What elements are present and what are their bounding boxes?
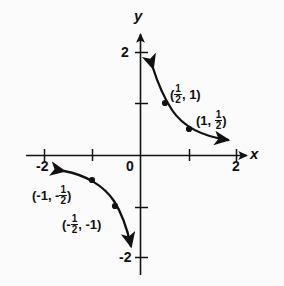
origin-label: 0 (126, 159, 134, 173)
label-open-paren: (1, (196, 113, 215, 128)
label-open-paren: (-1, - (32, 188, 59, 203)
point-one-half (186, 126, 192, 132)
graph-figure: x y 0 -2 2 2 -2 (12, 1) (1, 12) (-1, -12… (0, 0, 284, 286)
point-neg-one-neg-half (89, 177, 95, 183)
x-axis-label: x (250, 146, 258, 161)
fraction-one-half: 12 (174, 84, 182, 105)
point-label-neg-half-neg-one: (-12, -1) (62, 214, 101, 235)
point-half-one (162, 100, 168, 106)
label-rest: , 1) (182, 87, 201, 102)
graph-canvas (0, 0, 284, 286)
label-rest: , -1) (78, 217, 101, 232)
y-axis-label: y (134, 8, 142, 23)
x-tick-label--2: -2 (36, 159, 48, 173)
point-neg-half-neg-one (112, 203, 118, 209)
y-tick-label-2: 2 (121, 45, 129, 59)
fraction-one-half: 12 (59, 185, 67, 206)
label-rest: ) (67, 188, 71, 203)
label-rest: ) (222, 113, 226, 128)
point-label-neg-one-neg-half: (-1, -12) (32, 185, 71, 206)
y-tick-label--2: -2 (119, 250, 131, 264)
point-label-one-half: (1, 12) (196, 110, 227, 131)
label-open-paren: (- (62, 217, 71, 232)
point-label-half-one: (12, 1) (170, 84, 201, 105)
x-tick-label-2: 2 (232, 159, 240, 173)
